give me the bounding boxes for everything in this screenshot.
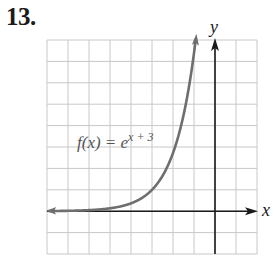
exponential-curve [48,38,196,211]
function-label-base: f(x) = e [77,133,129,152]
function-label-exponent: x + 3 [127,130,153,144]
y-axis-label: y [208,17,218,37]
function-graph: xyf(x) = ex + 3 [0,0,280,266]
function-label: f(x) = ex + 3 [77,130,154,152]
x-axis-label: x [261,200,270,220]
